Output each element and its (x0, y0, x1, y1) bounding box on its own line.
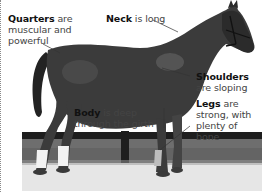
label-shoulders: Shoulders are sloping (196, 71, 249, 93)
hoof (56, 167, 70, 173)
label-quarters: Quarters are muscular and powerful (8, 13, 72, 46)
term-neck: Neck (106, 13, 132, 24)
fence-post (121, 131, 129, 163)
term-shoulders: Shoulders (196, 71, 249, 82)
label-body: Body is deep through the girth (74, 107, 154, 129)
ground (22, 163, 262, 191)
leg-bandage (36, 150, 48, 168)
term-quarters: Quarters (8, 13, 54, 24)
hoof (156, 171, 170, 177)
term-body: Body (74, 107, 100, 118)
label-legs: Legs are strong, with plenty of bone (196, 98, 262, 142)
leg-bandage (154, 150, 162, 166)
hoof (171, 167, 183, 173)
hoof (33, 169, 47, 175)
term-legs: Legs (196, 98, 221, 109)
leg-bandage (58, 146, 69, 166)
label-neck: Neck is long (106, 13, 165, 24)
